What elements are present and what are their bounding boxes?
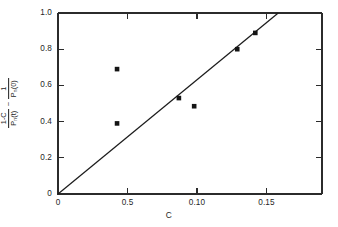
data-point-group (115, 31, 258, 126)
x-tick-label-0.10: 0.10 (189, 199, 205, 207)
y-tick-label-0.6: 0.6 (28, 81, 52, 89)
fit-line (58, 13, 278, 194)
term1-denominator-arg: (t) (9, 111, 18, 118)
data-point (253, 31, 258, 36)
y-tick-marks-right (316, 49, 322, 158)
x-tick-marks-top (128, 13, 267, 19)
data-point (192, 104, 197, 109)
y-tick-marks (58, 13, 64, 194)
y-axis-title-operator: − (5, 100, 14, 107)
y-tick-label-0.2: 0.2 (28, 154, 52, 162)
term2-denominator-sub: n (12, 89, 18, 92)
axis-left-bottom (58, 13, 322, 194)
y-tick-label-0.8: 0.8 (28, 45, 52, 53)
y-axis-title-term1: 1-C Pn(t) (0, 108, 18, 129)
term2-denominator-arg: (0) (9, 80, 18, 89)
y-axis-title-term2: 1 Pn(0) (0, 77, 18, 100)
y-tick-label-0: 0 (28, 190, 52, 198)
term1-denominator: Pn(t) (10, 109, 18, 128)
data-point (115, 121, 120, 126)
chart-figure: 1.0 0.8 0.6 0.4 0.2 0 0 0.5 0.10 0.15 C … (0, 0, 338, 227)
data-point (115, 67, 120, 72)
y-tick-label-0.4: 0.4 (28, 117, 52, 125)
data-point (235, 47, 240, 52)
term2-denominator: Pn(0) (10, 78, 18, 99)
x-tick-label-0.05: 0.5 (122, 199, 134, 207)
term1-denominator-base: P (9, 121, 18, 126)
term2-denominator-base: P (9, 92, 18, 97)
y-axis-title: 1-C Pn(t) − 1 Pn(0) (0, 43, 18, 163)
y-tick-label-1.0: 1.0 (28, 9, 52, 17)
x-tick-marks (58, 188, 267, 194)
data-point (177, 96, 182, 101)
term1-denominator-sub: n (12, 118, 18, 121)
x-axis-title: C (166, 210, 172, 220)
x-tick-label-0.15: 0.15 (258, 199, 274, 207)
x-tick-label-0: 0 (56, 199, 61, 207)
